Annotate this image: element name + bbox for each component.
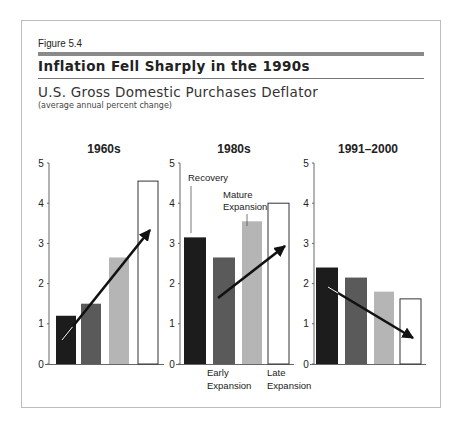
bar-late-expansion	[268, 203, 289, 364]
bar-late-expansion	[138, 181, 158, 364]
annotation-label: Recovery	[188, 172, 228, 183]
y-tick-label: 4	[303, 198, 309, 209]
y-tick-label: 2	[169, 278, 175, 289]
annotation-label: Early	[207, 367, 229, 378]
y-tick-label: 4	[169, 198, 175, 209]
bar-recovery	[316, 268, 338, 364]
annotation-label: Mature	[223, 189, 253, 200]
y-tick-label: 5	[169, 158, 175, 169]
y-tick-label: 0	[169, 359, 175, 370]
y-tick-label: 2	[38, 278, 44, 289]
annotation-label: Expansion	[207, 380, 251, 391]
annotation-label: Late	[267, 367, 286, 378]
panel-title: 1980s	[217, 142, 251, 156]
panel-title: 1991–2000	[338, 142, 398, 156]
trend-arrow	[62, 230, 150, 340]
y-tick-label: 3	[169, 238, 175, 249]
annotation-label: Expansion	[267, 380, 311, 391]
y-tick-label: 5	[303, 158, 309, 169]
y-tick-label: 0	[303, 359, 309, 370]
y-tick-label: 1	[169, 318, 175, 329]
chart-area: 1960s0123451980s0123451991–2000012345Rec…	[0, 0, 464, 431]
y-tick-label: 1	[303, 318, 309, 329]
y-tick-label: 4	[38, 198, 44, 209]
y-tick-label: 2	[303, 278, 309, 289]
y-tick-label: 3	[38, 238, 44, 249]
bar-recovery	[56, 316, 76, 364]
y-tick-label: 3	[303, 238, 309, 249]
bar-recovery	[184, 237, 206, 364]
bar-mature-expansion	[242, 221, 262, 364]
y-tick-label: 0	[38, 359, 44, 370]
bar-early-expansion	[213, 257, 235, 364]
bar-mature-expansion	[374, 292, 394, 364]
bar-mature-expansion	[109, 257, 129, 364]
bar-early-expansion	[345, 278, 367, 364]
y-tick-label: 1	[38, 318, 44, 329]
y-tick-label: 5	[38, 158, 44, 169]
panel-1: 1960s012345	[38, 142, 164, 370]
panel-title: 1960s	[87, 142, 121, 156]
annotation-label: Expansion	[223, 201, 267, 212]
